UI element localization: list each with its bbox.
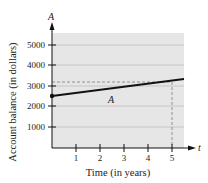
x-axis-title: Time (in years) xyxy=(86,167,151,179)
x-tick-label: 5 xyxy=(170,153,175,163)
y-tick-label: 5000 xyxy=(27,40,46,50)
x-axis-var: t xyxy=(198,142,201,153)
plot-area xyxy=(52,33,184,148)
y-tick-label: 1000 xyxy=(27,122,46,132)
x-tick-label: 4 xyxy=(146,153,151,163)
x-tick-label: 2 xyxy=(98,153,103,163)
curve-label: A xyxy=(107,94,115,105)
chart: 1000 2000 3000 4000 5000 1 2 3 4 5 A A t… xyxy=(0,0,208,183)
y-tick-label: 3000 xyxy=(27,81,46,91)
y-axis-arrow-icon xyxy=(50,22,55,30)
y-tick-label: 2000 xyxy=(27,101,46,111)
x-tick-label: 3 xyxy=(122,153,127,163)
y-tick-label: 4000 xyxy=(27,60,46,70)
x-tick-label: 1 xyxy=(74,153,79,163)
y-axis-title: Account balance (in dollars) xyxy=(7,42,19,162)
start-point xyxy=(50,94,54,98)
y-axis-var: A xyxy=(47,11,55,22)
x-axis-arrow-icon xyxy=(188,146,196,151)
